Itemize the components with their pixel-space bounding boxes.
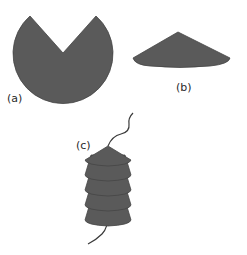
diagram-canvas: (a) (b) (c) (0, 0, 247, 255)
panel-a: (a) (7, 16, 113, 105)
flat-cone (133, 32, 230, 68)
cone-stack (85, 146, 131, 226)
strand-top (108, 113, 133, 146)
panel-c: (c) (76, 113, 133, 244)
wedge-cut-disc (13, 16, 113, 104)
panel-b: (b) (133, 32, 230, 94)
label-c: (c) (76, 139, 91, 152)
label-b: (b) (176, 81, 192, 94)
cone-1 (85, 146, 131, 166)
label-a: (a) (7, 92, 22, 105)
